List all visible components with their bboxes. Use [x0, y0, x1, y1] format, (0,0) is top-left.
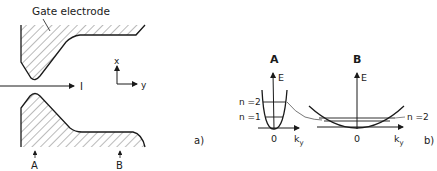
section-b-origin: 0 — [354, 133, 360, 144]
section-b-title: B — [353, 53, 361, 66]
diagram-canvas: Gate electrode I x y A B a) A E n =2 n =… — [0, 0, 437, 171]
level-n1-a-label: n =1 — [239, 112, 261, 122]
level-n2-a-label: n =2 — [239, 97, 261, 107]
panel-a-label: a) — [194, 135, 204, 146]
axis-x-label: x — [114, 56, 120, 66]
lower-gate-electrode — [21, 94, 145, 148]
dispersion-a — [258, 73, 322, 129]
marker-b-label: B — [116, 160, 123, 171]
section-b-energy-label: E — [361, 72, 367, 83]
xy-axes-icon — [117, 66, 137, 84]
section-a-title: A — [270, 53, 279, 66]
upper-gate-electrode — [21, 25, 145, 80]
section-a-k-label: ky — [294, 133, 304, 147]
current-label: I — [80, 81, 83, 92]
section-a-origin: 0 — [271, 133, 277, 144]
gate-electrode-label: Gate electrode — [32, 5, 110, 17]
section-b-k-label: ky — [394, 133, 404, 147]
axis-y-label: y — [141, 80, 147, 90]
level-connector — [287, 102, 322, 120]
dispersion-b — [309, 73, 405, 129]
panel-b-label: b) — [424, 135, 434, 146]
section-a-energy-label: E — [278, 72, 284, 83]
level-n2-b-label: n =2 — [407, 112, 429, 122]
marker-a-label: A — [31, 160, 38, 171]
